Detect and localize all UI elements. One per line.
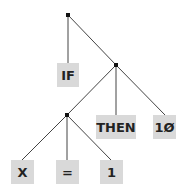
leaf-then: THEN xyxy=(96,115,136,139)
leaf-x: X xyxy=(11,160,34,184)
leaf-ten: 1Ø xyxy=(153,115,176,139)
mid-node xyxy=(114,63,118,67)
leaf-equals: = xyxy=(56,160,79,184)
leaf-one: 1 xyxy=(100,160,123,184)
leaf-if: IF xyxy=(57,63,79,87)
root-node xyxy=(66,13,70,17)
low-node xyxy=(65,113,69,117)
